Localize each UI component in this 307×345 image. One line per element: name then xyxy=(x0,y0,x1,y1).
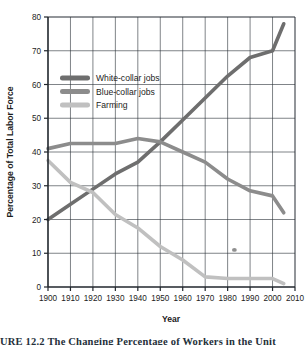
figure-caption: URE 12.2 The Changing Percentage of Work… xyxy=(0,336,307,345)
legend-label: White-collar jobs xyxy=(96,73,160,83)
y-tick-label: 70 xyxy=(32,47,42,56)
x-tick-label: 1970 xyxy=(196,294,215,303)
y-tick-label: 60 xyxy=(32,81,42,90)
annotation-layer xyxy=(232,248,237,252)
x-tick-label: 2010 xyxy=(286,294,305,303)
y-tick-label: 30 xyxy=(32,182,42,191)
y-tick-label: 80 xyxy=(32,13,42,22)
figure-container: 01020304050607080 1900191019201930194019… xyxy=(0,0,307,345)
plot-area: 01020304050607080 1900191019201930194019… xyxy=(32,13,305,303)
ink-smudge xyxy=(232,248,237,252)
x-tick-label: 1950 xyxy=(151,294,170,303)
x-axis-title: Year xyxy=(162,314,181,324)
legend-label: Blue-collar jobs xyxy=(96,87,155,97)
legend-swatch xyxy=(60,102,90,107)
y-tick-label: 40 xyxy=(32,148,42,157)
y-axis-ticks: 01020304050607080 xyxy=(32,13,48,292)
x-tick-label: 1920 xyxy=(84,294,103,303)
y-tick-label: 10 xyxy=(32,249,42,258)
y-tick-label: 0 xyxy=(36,283,41,292)
x-tick-label: 1930 xyxy=(106,294,125,303)
x-tick-label: 2000 xyxy=(263,294,282,303)
legend-swatch xyxy=(60,89,90,94)
x-tick-label: 1990 xyxy=(241,294,260,303)
legend-label: Farming xyxy=(96,100,128,110)
x-tick-label: 1910 xyxy=(61,294,80,303)
labor-force-line-chart: 01020304050607080 1900191019201930194019… xyxy=(0,0,307,345)
x-axis-ticks: 1900191019201930194019501960197019801990… xyxy=(39,287,305,303)
legend-swatch xyxy=(60,75,90,80)
y-axis-title: Percentage of Total Labor Force xyxy=(5,86,15,217)
x-tick-label: 1960 xyxy=(174,294,193,303)
y-tick-label: 50 xyxy=(32,114,42,123)
x-tick-label: 1900 xyxy=(39,294,58,303)
x-tick-label: 1980 xyxy=(219,294,238,303)
y-tick-label: 20 xyxy=(32,216,42,225)
x-tick-label: 1940 xyxy=(129,294,148,303)
